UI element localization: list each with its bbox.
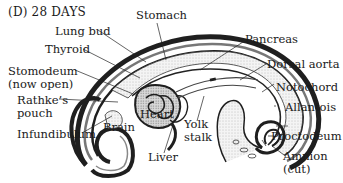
label-infundibulum: Infundibulum	[17, 128, 96, 140]
label-rathkes-pouch-1: Rathke’s	[17, 94, 68, 106]
label-pancreas: Pancreas	[245, 33, 298, 45]
label-heart: Heart	[140, 108, 174, 120]
embryo-diagram: (D) 28 DAYS Stomach Lung bud Pancreas Th…	[0, 0, 343, 183]
label-stomodeum-note: (now open)	[8, 78, 73, 90]
label-amnion-note: (cut)	[283, 163, 310, 175]
label-liver: Liver	[148, 151, 178, 163]
figure-title: (D) 28 DAYS	[8, 5, 86, 19]
label-dorsal-aorta: Dorsal aorta	[267, 58, 340, 70]
label-rathkes-pouch-2: pouch	[17, 107, 53, 119]
label-amnion: Amnion	[283, 150, 328, 162]
label-stomach: Stomach	[136, 9, 187, 21]
label-proctodeum: Proctodeum	[271, 130, 342, 142]
label-stomodeum: Stomodeum	[8, 65, 78, 77]
label-notochord: Notochord	[276, 81, 338, 93]
label-lung-bud: Lung bud	[55, 25, 111, 37]
label-yolk-2: stalk	[184, 131, 212, 143]
label-allantois: Allantois	[285, 101, 336, 113]
label-thyroid: Thyroid	[45, 43, 90, 55]
label-brain: Brain	[103, 121, 135, 133]
label-yolk-1: Yolk	[184, 118, 208, 130]
